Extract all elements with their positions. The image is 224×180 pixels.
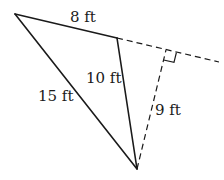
side-bc-line: [117, 38, 137, 169]
label-side-bc: 10 ft: [86, 69, 121, 87]
triangle-diagram: 8 ft 10 ft 15 ft 9 ft: [0, 0, 224, 180]
right-angle-marker: [164, 53, 177, 63]
label-side-ab: 8 ft: [70, 8, 96, 26]
extension-dashed-line: [117, 38, 219, 62]
label-altitude: 9 ft: [155, 101, 181, 119]
label-side-ac: 15 ft: [38, 87, 73, 105]
side-ac-line: [15, 14, 137, 169]
